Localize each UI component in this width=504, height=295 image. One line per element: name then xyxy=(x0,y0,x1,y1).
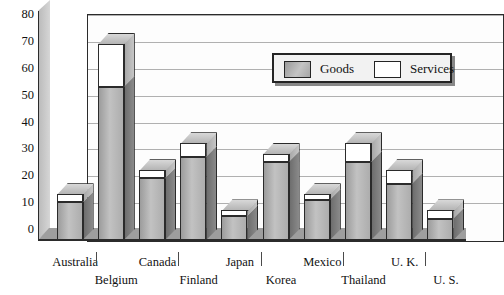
x-axis-separator xyxy=(178,252,179,266)
legend-item[interactable]: Services xyxy=(374,60,454,78)
x-axis-separator xyxy=(96,252,97,266)
legend-item-label: Services xyxy=(410,61,454,77)
x-axis-separator xyxy=(343,252,344,266)
x-axis-separator xyxy=(425,252,426,266)
chart-legend: GoodsServices xyxy=(272,53,452,83)
goods-swatch xyxy=(284,61,311,78)
x-axis-tick-label: U. S. xyxy=(396,274,496,287)
bar-segment-services[interactable] xyxy=(427,210,453,218)
legend-item-label: Goods xyxy=(320,61,354,77)
x-axis-tick-label: U. K. xyxy=(355,256,455,269)
bar-segment-goods[interactable] xyxy=(427,219,453,241)
x-axis-separator xyxy=(261,252,262,266)
legend-item[interactable]: Goods xyxy=(284,60,354,78)
services-swatch xyxy=(374,61,401,78)
